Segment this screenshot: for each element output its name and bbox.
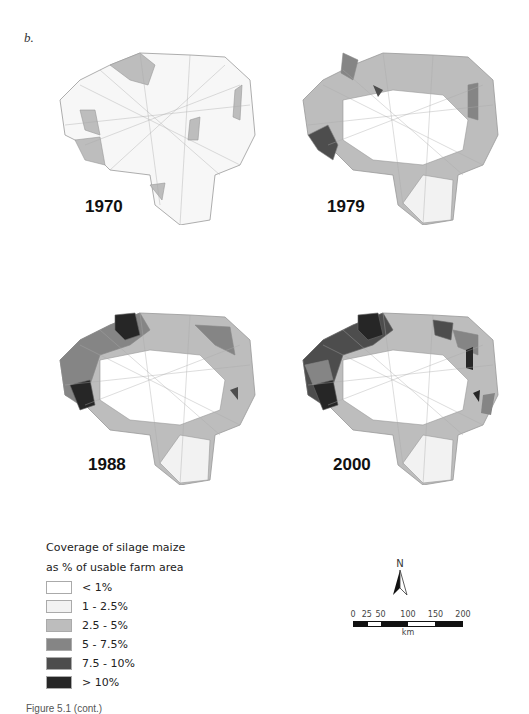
map-2000 [283, 285, 503, 485]
year-label-1979: 1979 [327, 197, 365, 217]
legend-swatch [46, 581, 72, 594]
legend-label: 7.5 - 10% [82, 657, 135, 670]
legend: Coverage of silage maize as % of usable … [46, 538, 185, 692]
region-map-1988 [40, 285, 260, 485]
region-map-1970 [40, 25, 260, 225]
legend-label: < 1% [82, 581, 112, 594]
scale-tick: 200 [455, 610, 470, 619]
legend-label: 1 - 2.5% [82, 600, 128, 613]
legend-item: < 1% [46, 578, 185, 597]
year-label-1988: 1988 [88, 455, 126, 475]
legend-swatch [46, 638, 72, 651]
north-arrow-icon [390, 569, 410, 597]
year-label-2000: 2000 [333, 455, 371, 475]
scale-unit: km [353, 628, 463, 637]
scale-bar: 0 25 50 100 150 200 km [353, 610, 463, 637]
north-arrow: N [385, 558, 415, 601]
legend-title-line1: Coverage of silage maize [46, 538, 185, 558]
scale-bar-segments [353, 621, 463, 627]
legend-label: 5 - 7.5% [82, 638, 128, 651]
scale-tick: 150 [428, 610, 443, 619]
scale-tick: 100 [400, 610, 415, 619]
region-map-2000 [283, 285, 503, 485]
legend-swatch [46, 676, 72, 689]
legend-swatch [46, 600, 72, 613]
legend-item: 1 - 2.5% [46, 597, 185, 616]
legend-item: > 10% [46, 673, 185, 692]
north-label: N [385, 558, 415, 569]
legend-swatch [46, 619, 72, 632]
legend-swatch [46, 657, 72, 670]
scale-tick: 25 [362, 610, 372, 619]
figure-caption: Figure 5.1 (cont.) [26, 703, 102, 714]
panel-label: b. [24, 30, 34, 46]
region-map-1979 [283, 25, 503, 225]
legend-item: 2.5 - 5% [46, 616, 185, 635]
year-label-1970: 1970 [85, 197, 123, 217]
legend-label: > 10% [82, 676, 119, 689]
legend-label: 2.5 - 5% [82, 619, 128, 632]
map-1988 [40, 285, 260, 485]
map-1979 [283, 25, 503, 225]
legend-title-line2: as % of usable farm area [46, 558, 185, 578]
legend-item: 5 - 7.5% [46, 635, 185, 654]
scale-tick: 0 [350, 610, 355, 619]
legend-item: 7.5 - 10% [46, 654, 185, 673]
map-1970 [40, 25, 260, 225]
scale-tick: 50 [375, 610, 385, 619]
